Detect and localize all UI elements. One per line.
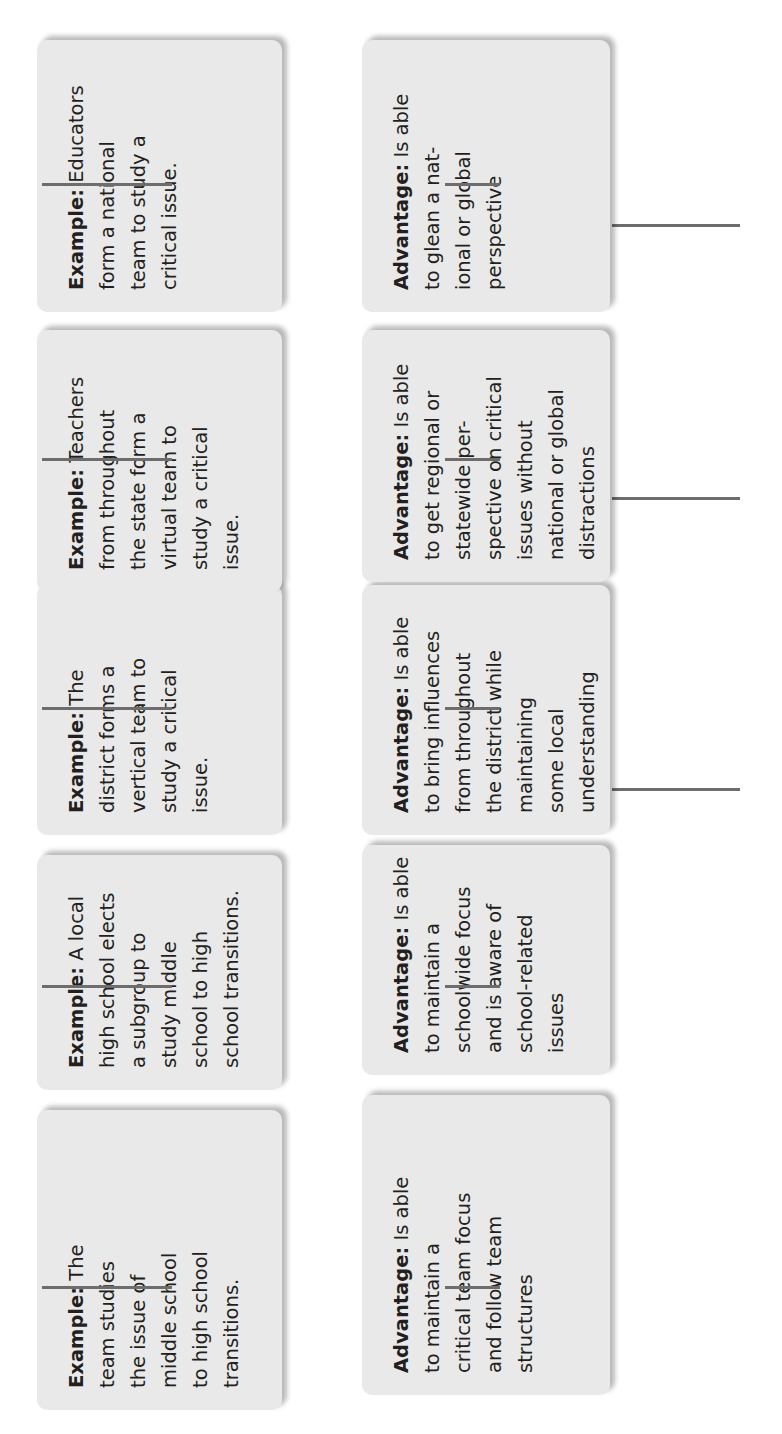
connector-left-1 — [42, 1286, 172, 1289]
connector-left-4 — [42, 458, 172, 461]
advantage-label: Advantage: — [390, 687, 413, 813]
connector-mid-4 — [445, 458, 500, 461]
connector-left-3 — [42, 707, 172, 710]
advantage-label: Advantage: — [390, 434, 413, 560]
advantage-label: Advantage: — [390, 164, 413, 290]
advantage-box-1: Advantage: Is able to maintain a critica… — [362, 1095, 610, 1395]
connector-top-3 — [612, 497, 740, 500]
advantage-label: Advantage: — [390, 1247, 413, 1373]
example-box-1: Example: The team studies the issue of m… — [37, 1110, 282, 1410]
connector-left-2 — [42, 985, 172, 988]
example-box-4: Example: Teachers from throughout the st… — [37, 330, 282, 592]
advantage-box-2: Advantage: Is able to maintain a schoolw… — [362, 845, 610, 1075]
example-label: Example: — [65, 1287, 88, 1388]
advantage-label: Advantage: — [390, 927, 413, 1053]
connector-left-5 — [42, 183, 172, 186]
example-box-3: Example: The district forms a vertical t… — [37, 585, 282, 835]
connector-mid-1 — [445, 1286, 500, 1289]
example-box-5: Example: Educators form a national team … — [37, 40, 282, 312]
team-levels-diagram: Advantage: Is able to maintain a critica… — [0, 0, 782, 1434]
connector-mid-5 — [445, 183, 500, 186]
example-box-2: Example: A local high school elects a su… — [37, 855, 282, 1090]
advantage-box-4: Advantage: Is able to get regional or st… — [362, 330, 610, 582]
connector-mid-3 — [445, 707, 500, 710]
connector-top-1 — [612, 224, 740, 227]
advantage-box-5: Advantage: Is able to glean a nat- ional… — [362, 40, 610, 312]
example-label: Example: — [65, 967, 88, 1068]
example-label: Example: — [65, 712, 88, 813]
advantage-box-3: Advantage: Is able to bring influences f… — [362, 585, 610, 835]
connector-top-2 — [612, 788, 740, 791]
example-label: Example: — [65, 189, 88, 290]
connector-mid-2 — [445, 985, 500, 988]
example-label: Example: — [65, 469, 88, 570]
